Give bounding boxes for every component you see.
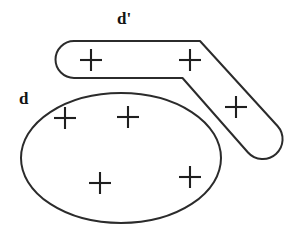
region-d-ellipse [21, 93, 221, 223]
ellipse-plus-lower-left [89, 172, 111, 194]
band-plus-arm [225, 96, 247, 118]
venn-diagram-svg [0, 0, 293, 231]
figure-canvas: d' d [0, 0, 293, 231]
ellipse-plus-upper-mid [117, 106, 139, 128]
label-d-prime: d' [117, 10, 131, 27]
label-d: d [19, 90, 28, 107]
band-plus-right [179, 49, 201, 71]
ellipse-plus-upper-left [54, 107, 76, 129]
ellipse-plus-lower-right [179, 166, 201, 188]
band-plus-left [80, 49, 102, 71]
